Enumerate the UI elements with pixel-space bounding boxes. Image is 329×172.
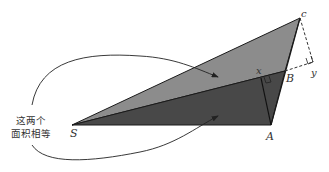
label-s: S xyxy=(70,127,78,140)
annotation-line-2: 面积相等 xyxy=(11,128,51,139)
label-a: A xyxy=(265,130,274,143)
label-c: c xyxy=(301,8,307,19)
diagram-canvas: S A B c x y 这两个 面积相等 xyxy=(0,0,329,172)
annotation-line-1: 这两个 xyxy=(16,115,46,126)
label-x: x xyxy=(256,65,262,76)
triangle-diagram: S A B c x y 这两个 面积相等 xyxy=(0,0,329,172)
label-y: y xyxy=(310,67,317,78)
dashed-altitude-cy xyxy=(300,18,313,62)
label-b: B xyxy=(285,72,294,85)
